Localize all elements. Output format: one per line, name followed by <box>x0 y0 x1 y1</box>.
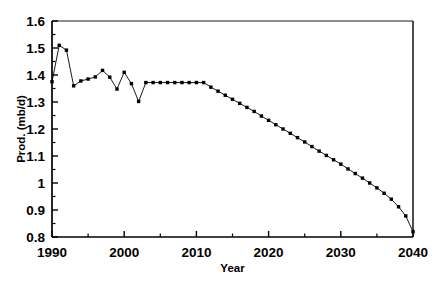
data-point-marker <box>180 81 183 84</box>
data-point-marker <box>50 80 53 83</box>
data-point-marker <box>361 176 364 179</box>
data-point-marker <box>173 81 176 84</box>
y-axis-tick-label: 1.3 <box>26 95 45 110</box>
production-forecast-chart: 0.80.911.11.21.31.41.51.6199020002010202… <box>0 0 438 289</box>
data-point-marker <box>274 123 277 126</box>
data-point-marker <box>346 167 349 170</box>
data-point-marker <box>368 181 371 184</box>
data-point-marker <box>86 77 89 80</box>
x-axis-tick-label: 2040 <box>398 245 428 260</box>
x-axis-tick-label: 1990 <box>37 245 67 260</box>
data-point-marker <box>58 44 61 47</box>
y-axis-tick-label: 1.4 <box>26 68 45 83</box>
y-axis-title: Prod. (mb/d) <box>15 95 27 163</box>
y-axis-tick-label: 1.6 <box>26 14 45 29</box>
data-point-marker <box>245 106 248 109</box>
data-point-marker <box>404 214 407 217</box>
data-point-marker <box>166 81 169 84</box>
data-point-marker <box>224 94 227 97</box>
data-point-marker <box>267 119 270 122</box>
data-point-marker <box>310 145 313 148</box>
data-point-marker <box>317 149 320 152</box>
x-axis-tick-label: 2030 <box>326 245 356 260</box>
y-axis-tick-label: 1.1 <box>26 149 45 164</box>
data-point-marker <box>123 71 126 74</box>
production-series-line <box>52 45 413 231</box>
data-point-marker <box>303 140 306 143</box>
data-point-marker <box>101 69 104 72</box>
y-axis-tick-label: 1 <box>37 176 45 191</box>
data-point-marker <box>202 81 205 84</box>
data-point-marker <box>281 127 284 130</box>
data-point-marker <box>137 100 140 103</box>
data-point-marker <box>354 172 357 175</box>
x-axis-tick-label: 2020 <box>254 245 284 260</box>
data-point-marker <box>65 48 68 51</box>
y-axis-tick-label: 0.9 <box>26 203 45 218</box>
data-point-marker <box>231 98 234 101</box>
data-point-marker <box>115 87 118 90</box>
data-point-marker <box>209 85 212 88</box>
data-point-marker <box>151 81 154 84</box>
data-point-marker <box>195 81 198 84</box>
data-point-marker <box>296 136 299 139</box>
data-point-marker <box>159 81 162 84</box>
data-point-marker <box>238 102 241 105</box>
x-axis-tick-label: 2010 <box>181 245 211 260</box>
y-axis-tick-label: 1.2 <box>26 122 45 137</box>
x-axis-title: Year <box>220 262 245 274</box>
data-point-marker <box>187 81 190 84</box>
data-point-marker <box>130 82 133 85</box>
data-point-marker <box>79 79 82 82</box>
data-point-marker <box>216 90 219 93</box>
data-point-marker <box>260 114 263 117</box>
data-point-marker <box>332 158 335 161</box>
data-point-marker <box>72 84 75 87</box>
data-point-marker <box>411 230 414 233</box>
data-point-marker <box>108 75 111 78</box>
data-point-marker <box>325 154 328 157</box>
production-forecast-figure: 0.80.911.11.21.31.41.51.6199020002010202… <box>0 0 438 289</box>
data-point-marker <box>339 162 342 165</box>
y-axis-tick-label: 0.8 <box>26 230 45 245</box>
data-point-marker <box>375 186 378 189</box>
data-point-marker <box>382 192 385 195</box>
data-point-marker <box>390 198 393 201</box>
y-axis-tick-label: 1.5 <box>26 41 45 56</box>
data-point-marker <box>397 205 400 208</box>
data-point-marker <box>94 75 97 78</box>
data-point-marker <box>289 132 292 135</box>
x-axis-tick-label: 2000 <box>109 245 139 260</box>
data-point-marker <box>252 110 255 113</box>
data-point-marker <box>144 81 147 84</box>
